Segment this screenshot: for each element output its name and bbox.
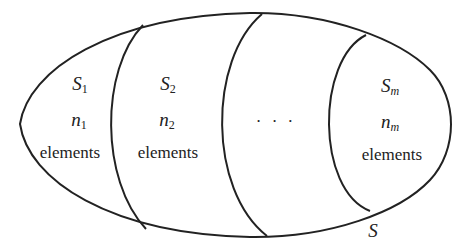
universe-set-label: S xyxy=(368,221,378,240)
region-2-set-label: S2 xyxy=(160,74,176,95)
region-m-set-label: Sm xyxy=(381,76,399,97)
region-2-count-symbol: n xyxy=(159,109,169,130)
divider-sm xyxy=(329,35,370,211)
region-1-set-subscript: 1 xyxy=(82,82,88,96)
divider-s1-s2 xyxy=(111,25,146,229)
region-m-count-symbol: n xyxy=(381,111,391,132)
region-2-set-symbol: S xyxy=(160,73,170,94)
region-1-caption: elements xyxy=(40,144,100,161)
region-2-set-subscript: 2 xyxy=(170,82,176,96)
region-1-count-label: n1 xyxy=(71,110,87,131)
region-2-count-label: n2 xyxy=(159,110,175,131)
region-m-set-subscript: m xyxy=(390,84,399,98)
region-m-caption: elements xyxy=(362,146,422,163)
region-m-count-subscript: m xyxy=(390,120,399,134)
region-m-set-symbol: S xyxy=(381,75,391,96)
region-2-count-subscript: 2 xyxy=(169,118,175,132)
region-1-set-symbol: S xyxy=(72,73,82,94)
region-1-count-symbol: n xyxy=(71,109,81,130)
region-2-caption: elements xyxy=(138,144,198,161)
region-1-set-label: S1 xyxy=(72,74,88,95)
region-1-count-subscript: 1 xyxy=(81,118,87,132)
ellipsis-label: · · · xyxy=(256,113,296,130)
region-m-count-label: nm xyxy=(381,112,399,133)
